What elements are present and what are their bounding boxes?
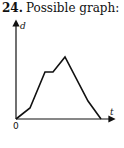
y-axis-label: d: [20, 21, 26, 31]
x-axis-label: t: [110, 107, 114, 117]
distance-time-graph: d t 0: [0, 0, 124, 148]
graph-line: [16, 57, 101, 119]
origin-label: 0: [13, 121, 19, 131]
